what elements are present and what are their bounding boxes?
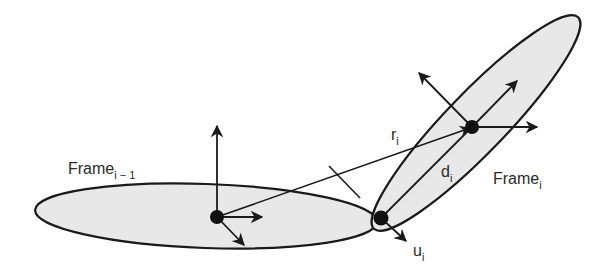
frame-cur-origin-dot [465,120,479,134]
angle-tick [329,166,360,198]
link-prev-body [34,178,378,254]
frame-prev-origin-dot [210,210,224,224]
frame-prev-label: Framei − 1 [68,160,135,181]
joint-dot [374,211,389,226]
kinematic-chain-diagram: Framei − 1 Framei ri di ui [0,0,607,277]
r-vector-label: ri [391,126,399,147]
u-vector-label: ui [413,242,424,263]
frame-cur-label: Framei [493,170,542,191]
